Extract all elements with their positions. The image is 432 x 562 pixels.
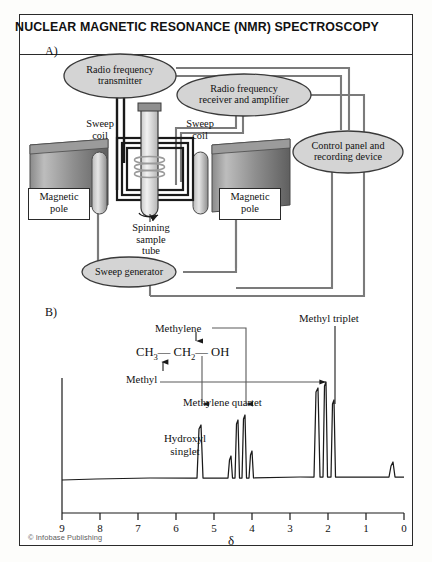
axis-label-delta: δ <box>228 533 234 549</box>
x-tick-3: 3 <box>283 522 297 534</box>
x-tick-0: 0 <box>397 522 411 534</box>
x-tick-7: 7 <box>131 522 145 534</box>
spectrum-plot <box>0 0 432 562</box>
x-tick-2: 2 <box>321 522 335 534</box>
x-axis <box>62 513 404 520</box>
x-tick-6: 6 <box>169 522 183 534</box>
publisher-credit: © Infobase Publishing <box>28 533 102 542</box>
methylene-leader <box>212 328 246 404</box>
x-tick-5: 5 <box>207 522 221 534</box>
spectrum-trace <box>62 382 404 480</box>
x-tick-4: 4 <box>245 522 259 534</box>
formula-arrows <box>163 332 196 371</box>
x-tick-1: 1 <box>359 522 373 534</box>
figure-page: NUCLEAR MAGNETIC RESONANCE (NMR) SPECTRO… <box>0 0 432 562</box>
